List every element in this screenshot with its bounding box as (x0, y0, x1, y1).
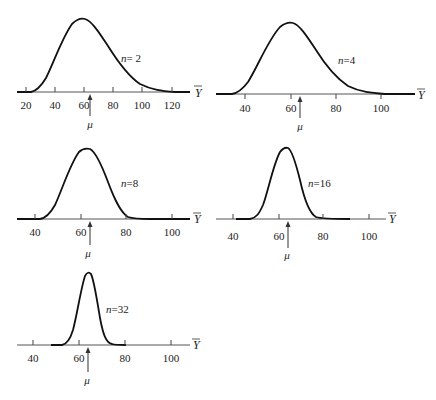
ybar-axis-label: Y (194, 86, 203, 100)
density-curve (17, 19, 190, 92)
tick-label: 40 (30, 226, 42, 238)
mu-label: μ (283, 249, 290, 261)
mu-label: μ (84, 247, 91, 259)
ybar-axis-label: Y (193, 212, 202, 226)
n-label: n=16 (308, 177, 331, 189)
panel-n16: 40 60 80 100 μ n=16 Y (216, 148, 397, 261)
tick-label: 60 (79, 99, 91, 111)
ybar-axis-label: Y (417, 88, 426, 102)
tick-label: 100 (163, 352, 180, 364)
tick-label: 120 (164, 99, 181, 111)
tick-label: 40 (50, 99, 62, 111)
ybar-axis-label: Y (388, 212, 397, 226)
n-label: n=32 (106, 303, 129, 315)
svg-text:Y: Y (193, 338, 201, 352)
tick-label: 60 (274, 230, 286, 242)
tick-label: 80 (120, 352, 132, 364)
arrow-head-icon (286, 221, 291, 227)
panel-n32: 40 60 80 100 μ n=32 Y (17, 273, 201, 386)
svg-text:Y: Y (195, 86, 203, 100)
tick-label: 100 (361, 230, 378, 242)
tick-label: 80 (318, 230, 330, 242)
mu-label: μ (83, 374, 90, 386)
tick-label: 100 (373, 102, 390, 114)
sampling-distribution-figure: 20 40 60 80 100 120 μ n= 2 Y 40 60 80 10… (0, 0, 436, 400)
tick-label: 100 (134, 99, 151, 111)
arrow-head-icon (86, 347, 91, 353)
svg-text:Y: Y (194, 212, 202, 226)
tick-label: 40 (228, 230, 240, 242)
tick-label: 60 (286, 102, 298, 114)
density-curve (17, 148, 190, 219)
mu-label: μ (86, 118, 93, 130)
mu-label: μ (296, 120, 303, 132)
tick-label: 80 (121, 226, 133, 238)
arrow-head-icon (88, 94, 93, 100)
n-label: n=4 (338, 54, 356, 66)
density-curve (216, 23, 415, 94)
tick-label: 40 (28, 352, 40, 364)
ybar-axis-label: Y (192, 338, 201, 352)
arrow-head-icon (88, 221, 93, 227)
tick-label: 60 (76, 226, 88, 238)
density-curve (236, 148, 350, 219)
tick-label: 20 (21, 99, 33, 111)
svg-text:Y: Y (389, 212, 397, 226)
n-label: n=8 (121, 177, 139, 189)
n-label: n= 2 (121, 52, 141, 64)
tick-label: 100 (164, 226, 181, 238)
panel-n2: 20 40 60 80 100 120 μ n= 2 Y (17, 19, 203, 130)
panel-n4: 40 60 80 100 μ n=4 Y (216, 23, 426, 132)
tick-label: 80 (331, 102, 343, 114)
tick-label: 80 (108, 99, 120, 111)
panel-n8: 40 60 80 100 μ n=8 Y (17, 148, 202, 259)
svg-text:Y: Y (418, 88, 426, 102)
arrow-head-icon (298, 96, 303, 102)
tick-label: 40 (240, 102, 252, 114)
tick-label: 60 (74, 352, 86, 364)
